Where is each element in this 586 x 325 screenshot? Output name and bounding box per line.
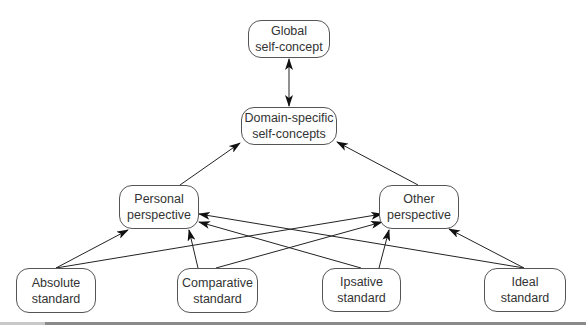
node-label-line1: Global xyxy=(271,23,307,39)
edge-personal-domain xyxy=(180,143,240,185)
node-ipsative-standard: Ipsative standard xyxy=(322,268,401,312)
node-label-line1: Other xyxy=(403,191,434,207)
node-label-line1: Ideal xyxy=(511,274,538,290)
node-label-line1: Personal xyxy=(134,191,183,207)
node-label-line1: Comparative xyxy=(182,275,253,291)
edge-comparative-personal xyxy=(189,230,198,268)
node-label-line2: standard xyxy=(501,290,550,306)
node-label-line1: Ipsative xyxy=(340,274,383,290)
edge-ipsative-personal xyxy=(199,222,361,268)
edge-other-domain xyxy=(337,142,418,185)
node-other-perspective: Other perspective xyxy=(379,185,459,229)
node-absolute-standard: Absolute standard xyxy=(16,268,96,313)
node-global-self-concept: Global self-concept xyxy=(248,20,330,58)
node-label-line2: perspective xyxy=(127,207,191,223)
edge-comparative-other xyxy=(216,222,382,268)
self-concept-diagram: Global self-concept Domain-specific self… xyxy=(0,0,586,325)
node-domain-specific-self-concepts: Domain-specific self-concepts xyxy=(241,107,337,145)
node-label-line2: perspective xyxy=(387,207,451,223)
node-comparative-standard: Comparative standard xyxy=(177,268,258,313)
node-personal-perspective: Personal perspective xyxy=(119,185,199,229)
edge-ideal-personal xyxy=(199,214,524,268)
node-label-line1: Absolute xyxy=(32,275,81,291)
node-label-line2: self-concepts xyxy=(252,126,326,142)
node-label-line2: standard xyxy=(337,290,386,306)
node-label-line1: Domain-specific xyxy=(245,110,334,126)
node-label-line2: standard xyxy=(32,291,81,307)
node-ideal-standard: Ideal standard xyxy=(484,268,566,312)
node-label-line2: standard xyxy=(193,291,242,307)
node-label-line2: self-concept xyxy=(255,39,322,55)
edge-ipsative-other xyxy=(379,230,389,268)
